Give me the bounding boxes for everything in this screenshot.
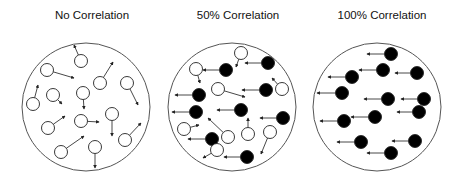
filled-particle-icon — [190, 106, 203, 119]
velocity-arrow-icon — [66, 136, 84, 148]
velocity-arrow-icon — [103, 62, 113, 77]
open-particle-icon — [222, 131, 235, 144]
filled-particle-icon — [346, 71, 359, 84]
open-particle-icon — [190, 63, 203, 76]
velocity-arrow-icon — [203, 153, 211, 158]
open-particle-icon — [55, 146, 68, 159]
container-circle — [168, 43, 296, 171]
filled-particle-icon — [411, 67, 424, 80]
filled-particle-icon — [369, 111, 382, 124]
filled-particle-icon — [418, 93, 431, 106]
open-particle-icon — [27, 98, 40, 111]
panel-50-correlation — [168, 43, 296, 171]
open-particle-icon — [47, 89, 60, 102]
velocity-arrow-icon — [35, 85, 38, 98]
open-particle-icon — [119, 134, 132, 147]
open-particle-icon — [211, 144, 224, 157]
filled-particle-icon — [385, 48, 398, 61]
filled-particle-icon — [355, 136, 368, 149]
open-particle-icon — [42, 122, 55, 135]
velocity-arrow-icon — [53, 72, 74, 78]
open-particle-icon — [235, 47, 248, 60]
open-particle-icon — [106, 108, 119, 121]
open-particle-icon — [121, 77, 134, 90]
open-particle-icon — [75, 115, 88, 128]
filled-particle-icon — [277, 112, 290, 125]
open-particle-icon — [77, 87, 90, 100]
filled-particle-icon — [235, 104, 248, 117]
velocity-arrow-icon — [261, 138, 268, 154]
filled-particle-icon — [385, 147, 398, 160]
open-particle-icon — [212, 83, 225, 96]
velocity-arrow-icon — [87, 121, 99, 122]
velocity-arrow-icon — [236, 59, 239, 67]
filled-particle-icon — [262, 57, 275, 70]
filled-particle-icon — [338, 115, 351, 128]
open-particle-icon — [75, 55, 88, 68]
filled-particle-icon — [193, 89, 206, 102]
velocity-arrow-icon — [83, 99, 84, 109]
particle-panels — [0, 0, 463, 183]
filled-particle-icon — [382, 93, 395, 106]
velocity-arrow-icon — [190, 125, 199, 127]
panel-100-correlation — [313, 43, 441, 171]
panel-no-correlation — [22, 43, 150, 171]
velocity-arrow-icon — [58, 100, 62, 104]
open-particle-icon — [276, 83, 289, 96]
filled-particle-icon — [241, 151, 254, 164]
velocity-arrow-icon — [53, 116, 65, 124]
open-particle-icon — [178, 123, 191, 136]
velocity-arrow-icon — [130, 89, 138, 105]
open-particle-icon — [41, 64, 54, 77]
filled-particle-icon — [260, 84, 273, 97]
open-particle-icon — [94, 77, 107, 90]
filled-particle-icon — [413, 106, 426, 119]
filled-particle-icon — [336, 87, 349, 100]
open-particle-icon — [89, 141, 102, 154]
velocity-arrow-icon — [74, 45, 78, 55]
open-particle-icon — [264, 126, 277, 139]
velocity-arrow-icon — [208, 118, 223, 133]
open-particle-icon — [242, 128, 255, 141]
filled-particle-icon — [220, 64, 233, 77]
velocity-arrow-icon — [272, 78, 278, 84]
velocity-arrow-icon — [224, 91, 245, 97]
velocity-arrow-icon — [129, 123, 141, 135]
filled-particle-icon — [377, 64, 390, 77]
filled-particle-icon — [409, 135, 422, 148]
velocity-arrow-icon — [198, 75, 200, 83]
